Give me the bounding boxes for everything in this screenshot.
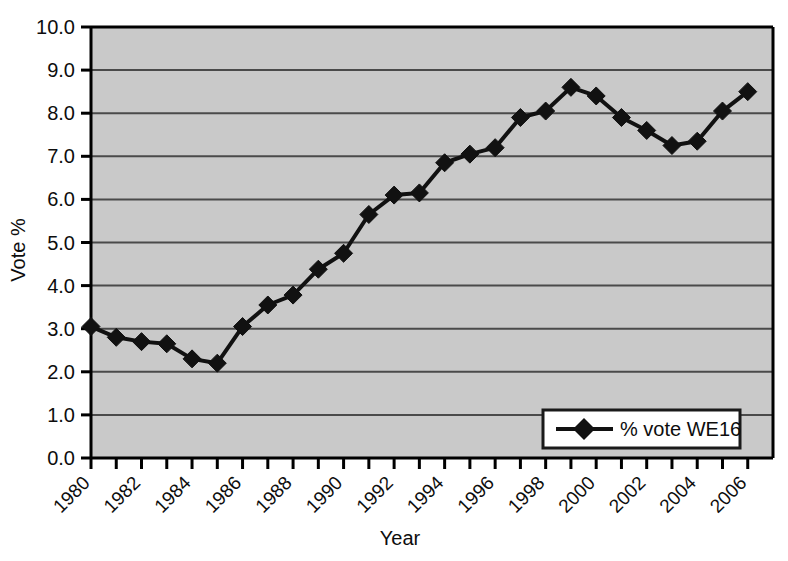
y-axis-tick-label: 0.0 — [47, 447, 75, 469]
y-axis-tick-label: 1.0 — [47, 404, 75, 426]
x-axis: 1980198219841986198819901992199419961998… — [49, 458, 750, 517]
y-axis-tick-label: 5.0 — [47, 232, 75, 254]
x-axis-title: Year — [380, 527, 421, 549]
x-axis-tick-label: 1980 — [49, 472, 94, 517]
chart-container: 0.01.02.03.04.05.06.07.08.09.010.0 19801… — [0, 0, 788, 561]
y-axis-tick-label: 7.0 — [47, 145, 75, 167]
x-axis-tick-label: 1994 — [403, 472, 448, 517]
y-axis-tick-label: 10.0 — [36, 16, 75, 38]
y-axis-tick-label: 3.0 — [47, 318, 75, 340]
x-axis-tick-label: 1998 — [504, 472, 549, 517]
y-axis-tick-label: 6.0 — [47, 188, 75, 210]
x-axis-tick-label: 1982 — [100, 472, 145, 517]
y-axis-title: Vote % — [7, 218, 29, 282]
y-axis-tick-label: 2.0 — [47, 361, 75, 383]
vote-percentage-line-chart: 0.01.02.03.04.05.06.07.08.09.010.0 19801… — [0, 0, 788, 561]
x-axis-tick-label: 1988 — [251, 472, 296, 517]
x-axis-tick-label: 2004 — [655, 472, 700, 517]
y-axis-tick-label: 4.0 — [47, 275, 75, 297]
x-axis-tick-label: 2002 — [605, 472, 650, 517]
y-axis-tick-label: 9.0 — [47, 59, 75, 81]
y-axis-tick-label: 8.0 — [47, 102, 75, 124]
x-axis-tick-label: 2000 — [554, 472, 599, 517]
x-axis-tick-label: 1986 — [201, 472, 246, 517]
legend-entry-label: % vote WE16 — [620, 418, 741, 440]
x-axis-tick-label: 1996 — [453, 472, 498, 517]
x-axis-tick-label: 1984 — [150, 472, 195, 517]
x-axis-tick-label: 1992 — [352, 472, 397, 517]
legend[interactable]: % vote WE16 — [543, 410, 741, 448]
y-axis: 0.01.02.03.04.05.06.07.08.09.010.0 — [36, 16, 91, 469]
x-axis-tick-label: 1990 — [302, 472, 347, 517]
x-axis-tick-label: 2006 — [706, 472, 751, 517]
